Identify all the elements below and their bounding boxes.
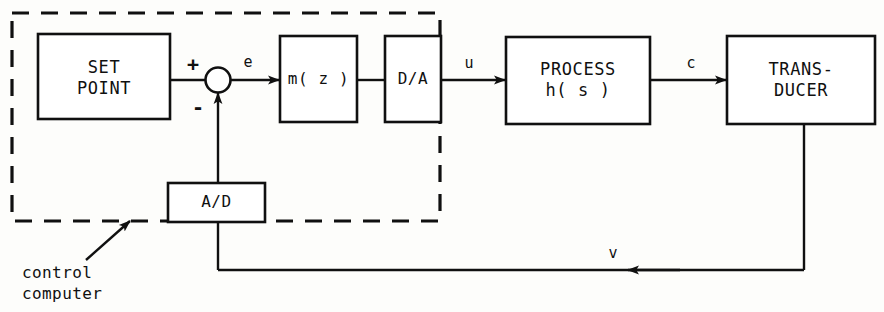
signal-label-v: v: [603, 246, 623, 261]
summing-minus-sign: -: [188, 98, 208, 116]
signal-label-c: c: [681, 56, 701, 71]
block-dac-label: D/A: [385, 69, 441, 89]
annotation-leader-arrow: [86, 221, 130, 260]
signal-label-u: u: [459, 56, 479, 71]
block-controller-label: m( z ): [280, 69, 357, 89]
block-process-label: PROCESS h( s ): [506, 59, 650, 101]
control-computer-annotation: control computer: [22, 262, 202, 304]
signal-label-e: e: [238, 55, 258, 70]
block-set-point-label: SET POINT: [38, 57, 170, 99]
block-transducer-label: TRANS- DUCER: [727, 59, 875, 101]
summing-plus-sign: +: [183, 55, 203, 73]
summing-junction-circle[interactable]: [206, 68, 231, 93]
block-adc-label: A/D: [168, 192, 265, 212]
block-diagram-canvas: SET POINT m( z ) D/A PROCESS h( s ) TRAN…: [0, 0, 884, 312]
